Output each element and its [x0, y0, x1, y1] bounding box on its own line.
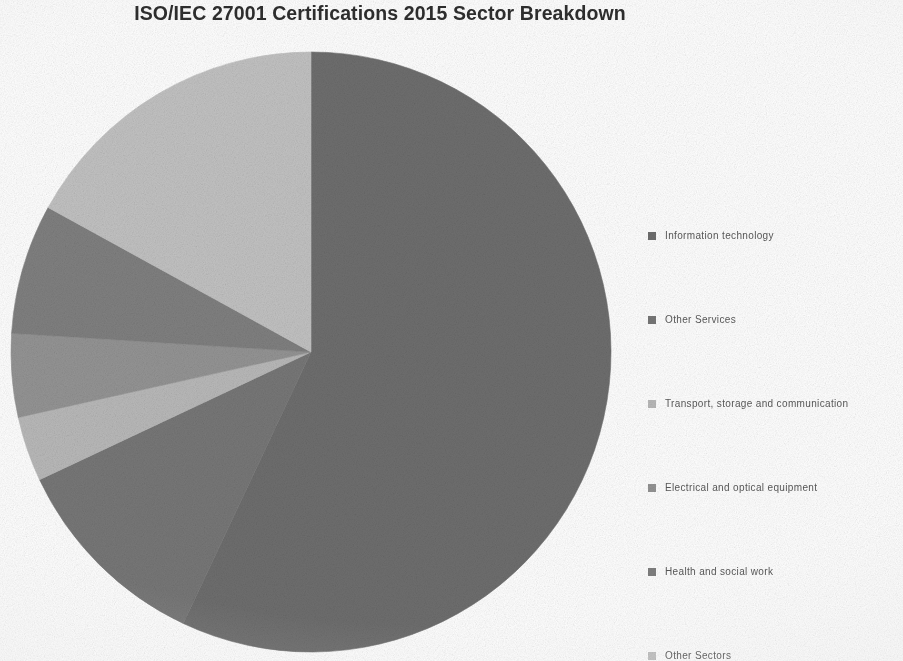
legend-swatch-icon: [648, 232, 656, 240]
legend-swatch-icon: [648, 568, 656, 576]
legend-label: Information technology: [665, 230, 774, 241]
legend-label: Electrical and optical equipment: [665, 482, 817, 493]
legend-item-health-and-social-work[interactable]: Health and social work: [648, 558, 903, 642]
legend-label: Other Sectors: [665, 650, 731, 661]
legend-swatch-icon: [648, 400, 656, 408]
legend-item-other-sectors[interactable]: Other Sectors: [648, 642, 903, 661]
legend-item-transport-storage-and-communication[interactable]: Transport, storage and communication: [648, 390, 903, 474]
pie-slice-group: [11, 52, 611, 652]
pie-chart: [10, 51, 612, 653]
legend-label: Other Services: [665, 314, 736, 325]
legend-label: Health and social work: [665, 566, 773, 577]
pie-chart-svg: [10, 51, 612, 653]
legend-item-electrical-and-optical-equipment[interactable]: Electrical and optical equipment: [648, 474, 903, 558]
legend-swatch-icon: [648, 652, 656, 660]
chart-legend: Information technology Other Services Tr…: [648, 222, 903, 661]
legend-swatch-icon: [648, 484, 656, 492]
legend-item-other-services[interactable]: Other Services: [648, 306, 903, 390]
chart-title: ISO/IEC 27001 Certifications 2015 Sector…: [0, 2, 760, 25]
legend-label: Transport, storage and communication: [665, 398, 848, 409]
legend-item-information-technology[interactable]: Information technology: [648, 222, 903, 306]
legend-swatch-icon: [648, 316, 656, 324]
